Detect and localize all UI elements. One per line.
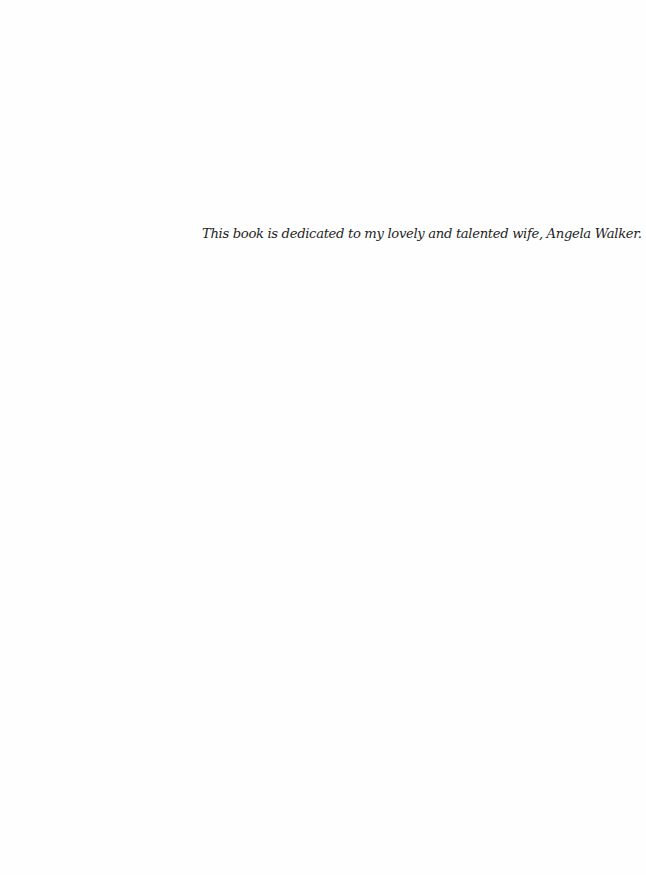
dedication-text: This book is dedicated to my lovely and … — [202, 224, 642, 244]
book-page: This book is dedicated to my lovely and … — [0, 0, 646, 875]
